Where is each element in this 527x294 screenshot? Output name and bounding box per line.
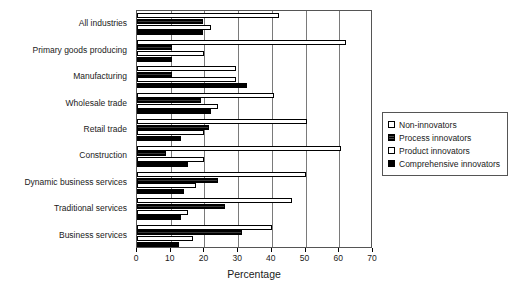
bar (137, 30, 203, 35)
bar (137, 104, 218, 109)
category-label: Dynamic business services (0, 177, 127, 187)
bar (137, 225, 272, 230)
bar (137, 204, 225, 209)
plot-area (136, 10, 372, 248)
bar (137, 98, 201, 103)
bar-group (137, 90, 371, 116)
bar-group (137, 196, 371, 222)
bar (137, 157, 204, 162)
bar (137, 130, 204, 135)
category-label: All industries (0, 18, 127, 28)
x-tick-label: 40 (256, 253, 286, 263)
bar-group (137, 170, 371, 196)
bar (137, 40, 346, 45)
legend-label: Comprehensive innovators (399, 159, 500, 169)
bar (137, 162, 188, 167)
x-tick-label: 60 (323, 253, 353, 263)
category-label: Retail trade (0, 124, 127, 134)
legend-swatch-icon (388, 160, 395, 167)
x-tick-label: 70 (357, 253, 387, 263)
bar (137, 151, 166, 156)
bar-group (137, 37, 371, 63)
bar (137, 198, 292, 203)
bar (137, 242, 179, 247)
legend-swatch-icon (388, 121, 395, 128)
category-label: Manufacturing (0, 71, 127, 81)
category-label: Construction (0, 150, 127, 160)
x-tick (203, 248, 204, 252)
category-label: Business services (0, 230, 127, 240)
bar (137, 45, 172, 50)
bar (137, 119, 307, 124)
bar (137, 178, 218, 183)
x-tick (237, 248, 238, 252)
legend-item[interactable]: Non-innovators (388, 118, 500, 131)
legend-label: Product innovators (399, 146, 470, 156)
bar (137, 210, 188, 215)
bar-group (137, 223, 371, 249)
bar (137, 93, 274, 98)
x-tick-label: 30 (222, 253, 252, 263)
legend-item[interactable]: Product innovators (388, 144, 500, 157)
bar (137, 136, 181, 141)
bar (137, 172, 306, 177)
legend-item[interactable]: Process innovators (388, 131, 500, 144)
bar-group (137, 11, 371, 37)
bar (137, 51, 204, 56)
legend-item[interactable]: Comprehensive innovators (388, 157, 500, 170)
bar (137, 146, 341, 151)
x-axis-title: Percentage (136, 268, 372, 280)
category-label: Wholesale trade (0, 98, 127, 108)
bar (137, 66, 236, 71)
x-tick (372, 248, 373, 252)
bar (137, 13, 279, 18)
bar-group (137, 64, 371, 90)
bar (137, 83, 247, 88)
bar (137, 57, 172, 62)
x-tick-label: 0 (121, 253, 151, 263)
category-label: Primary goods producing (0, 45, 127, 55)
bar-group (137, 117, 371, 143)
bar-group (137, 143, 371, 169)
category-label: Traditional services (0, 203, 127, 213)
bar (137, 77, 236, 82)
bar (137, 215, 181, 220)
legend-label: Process innovators (399, 133, 471, 143)
bar (137, 183, 196, 188)
bar (137, 25, 211, 30)
bar (137, 125, 209, 130)
x-axis-tick-labels: 010203040506070 (0, 253, 527, 267)
x-tick (136, 248, 137, 252)
bar (137, 189, 184, 194)
legend-swatch-icon (388, 134, 395, 141)
x-tick-label: 10 (155, 253, 185, 263)
bar (137, 72, 172, 77)
x-tick-label: 20 (188, 253, 218, 263)
x-tick (170, 248, 171, 252)
bar (137, 109, 211, 114)
bar (137, 236, 193, 241)
legend-swatch-icon (388, 147, 395, 154)
category-axis-labels: All industriesPrimary goods producingMan… (0, 10, 131, 248)
x-tick (271, 248, 272, 252)
bar-chart: All industriesPrimary goods producingMan… (0, 0, 527, 294)
x-tick (305, 248, 306, 252)
x-tick (338, 248, 339, 252)
bar (137, 19, 203, 24)
legend-label: Non-innovators (399, 120, 457, 130)
chart-legend: Non-innovatorsProcess innovatorsProduct … (382, 112, 508, 176)
x-tick-label: 50 (290, 253, 320, 263)
bar (137, 230, 242, 235)
